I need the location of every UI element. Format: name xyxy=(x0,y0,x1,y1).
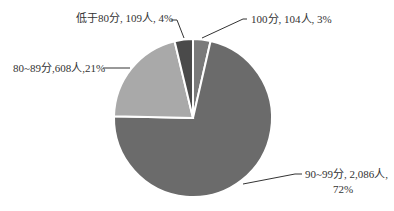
leader-line-100 xyxy=(202,19,247,38)
label-below-80: 低于80分, 109人, 4% xyxy=(76,12,173,24)
leader-line-90-99 xyxy=(243,174,302,184)
label-90-99-line2: 72% xyxy=(333,183,353,195)
label-90-99-line1: 90~99分, 2,086人, xyxy=(305,168,388,180)
label-80-89: 80~89分,608人,21% xyxy=(13,62,105,74)
label-100: 100分, 104人, 3% xyxy=(251,13,332,25)
pie-chart: 100分, 104人, 3% 低于80分, 109人, 4% 80~89分,60… xyxy=(0,0,394,211)
